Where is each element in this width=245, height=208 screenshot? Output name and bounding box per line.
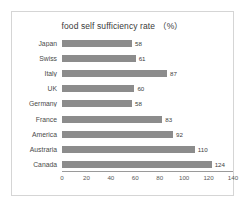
bar-value-label: 58 (135, 100, 142, 107)
x-tick-label: 100 (179, 174, 189, 181)
x-tick-label: 0 (60, 174, 63, 181)
bar-row: UK60 (12, 82, 233, 96)
bar-row: America92 (12, 127, 233, 141)
category-label: Japan (12, 40, 62, 47)
bar (62, 55, 136, 62)
category-label: Italy (12, 70, 62, 77)
x-tick-label: 120 (203, 174, 213, 181)
bar-value-label: 124 (215, 161, 225, 168)
category-label: UK (12, 85, 62, 92)
bar-value-label: 92 (176, 131, 183, 138)
bar-row: Germany58 (12, 97, 233, 111)
bar-zone: 87 (62, 67, 233, 81)
bar-value-label: 83 (165, 116, 172, 123)
bar-row: Austraria110 (12, 142, 233, 156)
chart-page: food self sufficiency rate （%） Japan58Sw… (0, 0, 245, 208)
bar-zone: 58 (62, 97, 233, 111)
bar-row: Canada124 (12, 157, 233, 171)
bar-zone: 61 (62, 52, 233, 66)
bar-row: Japan58 (12, 37, 233, 51)
x-tick-label: 80 (156, 174, 163, 181)
bar-value-label: 110 (198, 146, 208, 153)
bar-zone: 110 (62, 142, 233, 156)
plot-area: Japan58Swiss61Italy87UK60Germany58France… (12, 36, 233, 195)
bar (62, 40, 132, 47)
x-tick-label: 40 (107, 174, 114, 181)
bar-row: France83 (12, 112, 233, 126)
bar-row: Italy87 (12, 67, 233, 81)
chart-frame: food self sufficiency rate （%） Japan58Sw… (11, 11, 234, 196)
category-label: Germany (12, 100, 62, 107)
bar-zone: 60 (62, 82, 233, 96)
x-axis-line (62, 171, 233, 172)
category-label: Canada (12, 161, 62, 168)
category-label: Swiss (12, 55, 62, 62)
x-tick-label: 140 (228, 174, 238, 181)
bar-zone: 124 (62, 157, 233, 171)
chart-title: food self sufficiency rate （%） (12, 19, 233, 31)
bar-row: Swiss61 (12, 52, 233, 66)
bar-value-label: 87 (170, 70, 177, 77)
bar-value-label: 60 (137, 85, 144, 92)
bar-zone: 58 (62, 37, 233, 51)
x-tick-label: 20 (83, 174, 90, 181)
x-tick-label: 60 (132, 174, 139, 181)
bar (62, 100, 132, 107)
bar (62, 161, 212, 168)
bar-rows: Japan58Swiss61Italy87UK60Germany58France… (12, 36, 233, 172)
bar (62, 131, 173, 138)
category-label: Austraria (12, 146, 62, 153)
bar (62, 70, 167, 77)
bar (62, 146, 195, 153)
x-axis-ticks: 020406080100120140 (62, 174, 233, 186)
bar (62, 85, 134, 92)
bar-value-label: 61 (139, 55, 146, 62)
bar-value-label: 58 (135, 40, 142, 47)
category-label: France (12, 116, 62, 123)
category-label: America (12, 131, 62, 138)
bar-zone: 83 (62, 112, 233, 126)
bar (62, 116, 162, 123)
bar-zone: 92 (62, 127, 233, 141)
